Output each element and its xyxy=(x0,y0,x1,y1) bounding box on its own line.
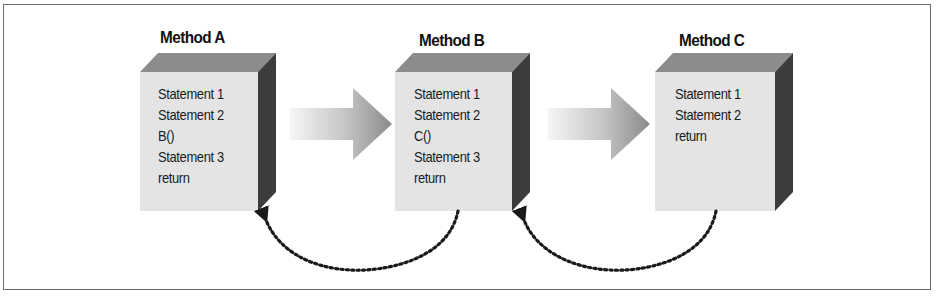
method-a-statements: Statement 1 Statement 2 B() Statement 3 … xyxy=(158,83,224,188)
method-c-statements: Statement 1 Statement 2 return xyxy=(675,83,741,146)
method-a-title: Method A xyxy=(160,28,225,48)
statement: Statement 1 xyxy=(158,83,224,104)
statement: Statement 3 xyxy=(414,146,480,167)
return-arrow-c-to-b xyxy=(524,211,716,270)
method-b-statements: Statement 1 Statement 2 C() Statement 3 … xyxy=(414,83,480,188)
statement-call: B() xyxy=(158,125,224,146)
statement: Statement 2 xyxy=(158,104,224,125)
statement: Statement 1 xyxy=(414,83,480,104)
statement-return: return xyxy=(414,167,480,188)
return-arrow-b-to-a xyxy=(266,211,458,270)
call-arrow-b-to-c xyxy=(548,88,650,160)
call-arrow-a-to-b xyxy=(290,88,392,160)
statement-return: return xyxy=(675,125,741,146)
statement: Statement 1 xyxy=(675,83,741,104)
statement: Statement 2 xyxy=(414,104,480,125)
statement: Statement 2 xyxy=(675,104,741,125)
statement-return: return xyxy=(158,167,224,188)
statement-call: C() xyxy=(414,125,480,146)
method-c-title: Method C xyxy=(679,31,744,51)
statement: Statement 3 xyxy=(158,146,224,167)
method-b-title: Method B xyxy=(419,31,484,51)
